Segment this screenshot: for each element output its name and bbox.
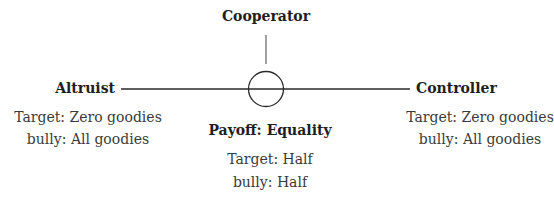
altruist-target-text: Target: Zero goodies — [14, 109, 162, 125]
payoff-bully-text: bully: Half — [233, 174, 307, 190]
payoff-target-text: Target: Half — [227, 151, 313, 167]
altruist-label: Altruist — [55, 80, 115, 96]
altruist-bully-text: bully: All goodies — [27, 131, 149, 147]
cooperator-label: Cooperator — [222, 8, 310, 24]
controller-label: Controller — [416, 80, 497, 96]
controller-bully-text: bully: All goodies — [419, 131, 541, 147]
payoff-label: Payoff: Equality — [208, 122, 331, 138]
controller-target-text: Target: Zero goodies — [406, 109, 554, 125]
